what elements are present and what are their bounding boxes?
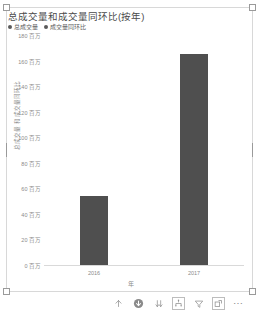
y-axis-tick-label: 120 百万 bbox=[18, 109, 41, 117]
bar-2016[interactable] bbox=[80, 196, 108, 265]
y-axis-tick-label: 0 百万 bbox=[24, 262, 41, 270]
y-axis-tick-label: 180 百万 bbox=[18, 32, 41, 40]
chart-title: 总成交量和成交量同环比(按年) bbox=[8, 9, 144, 23]
resize-handle-bottom-left[interactable] bbox=[3, 288, 10, 295]
legend-swatch-icon bbox=[44, 25, 48, 29]
drill-up-icon[interactable] bbox=[112, 297, 125, 310]
y-axis-tick-label: 40 百万 bbox=[21, 211, 41, 219]
y-axis-tick-label: 100 百万 bbox=[18, 134, 41, 142]
chart-visual-container: 总成交量和成交量同环比(按年) 总成交量 成交量同环比 总成交量 和 成交量同环… bbox=[0, 0, 261, 326]
expand-hierarchy-icon[interactable] bbox=[172, 297, 185, 310]
resize-handle-bottom-right[interactable] bbox=[249, 288, 256, 295]
plot-area: 180 百万160 百万140 百万120 百万100 百万80 百万60 百万… bbox=[44, 36, 244, 266]
filter-icon[interactable] bbox=[192, 297, 205, 310]
x-axis-tick-label: 2016 bbox=[88, 270, 100, 276]
y-axis-tick-label: 60 百万 bbox=[21, 185, 41, 193]
focus-mode-icon[interactable] bbox=[212, 297, 225, 310]
chart-legend: 总成交量 成交量同环比 bbox=[8, 22, 86, 31]
resize-handle-left[interactable] bbox=[6, 143, 7, 157]
x-axis-line bbox=[44, 265, 244, 266]
drill-down-icon[interactable] bbox=[132, 297, 145, 310]
y-axis-tick-label: 160 百万 bbox=[18, 58, 41, 66]
x-axis-title: 年 bbox=[0, 279, 261, 288]
visual-toolbar: ⋯ bbox=[112, 297, 245, 310]
legend-swatch-icon bbox=[8, 25, 12, 29]
y-axis-tick-label: 20 百万 bbox=[21, 236, 41, 244]
legend-item-volume-growth[interactable]: 成交量同环比 bbox=[44, 22, 86, 31]
bar-2017[interactable] bbox=[180, 54, 208, 265]
resize-handle-top-right[interactable] bbox=[249, 4, 256, 11]
resize-handle-right[interactable] bbox=[252, 143, 253, 157]
drill-next-level-icon[interactable] bbox=[152, 297, 165, 310]
legend-label: 成交量同环比 bbox=[50, 22, 86, 31]
x-axis-tick-label: 2017 bbox=[188, 270, 200, 276]
legend-label: 总成交量 bbox=[14, 22, 38, 31]
y-axis-tick-label: 80 百万 bbox=[21, 160, 41, 168]
legend-item-total-volume[interactable]: 总成交量 bbox=[8, 22, 38, 31]
more-options-icon[interactable]: ⋯ bbox=[232, 297, 245, 310]
y-axis-tick-label: 140 百万 bbox=[18, 83, 41, 91]
